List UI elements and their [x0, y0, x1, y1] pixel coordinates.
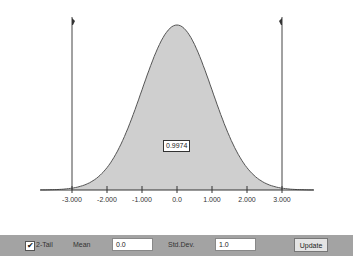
two-tail-checkbox[interactable]: ✔ [25, 241, 35, 251]
left-handle-flag-icon [72, 18, 75, 25]
two-tail-label: 2-Tail [36, 241, 53, 248]
control-toolbar: ✔ 2-Tail Mean 0.0 Std.Dev. 1.0 Update [0, 235, 353, 256]
tick-label: 0.0 [162, 196, 192, 203]
tick-label: 3.000 [267, 196, 297, 203]
mean-label: Mean [73, 241, 91, 248]
distribution-curve [0, 0, 360, 215]
right-handle-flag-icon [279, 18, 282, 25]
std-dev-input[interactable]: 1.0 [215, 238, 256, 251]
normal-distribution-plot: -3.000 -2.000 -1.000 0.0 1.000 2.000 3.0… [0, 0, 360, 215]
tick-label: 1.000 [197, 196, 227, 203]
std-dev-label: Std.Dev. [168, 241, 194, 248]
mean-input[interactable]: 0.0 [112, 238, 153, 251]
update-button[interactable]: Update [294, 238, 328, 252]
tick-label: -3.000 [57, 196, 87, 203]
area-value-label: 0.9974 [163, 140, 190, 152]
tick-label: -2.000 [92, 196, 122, 203]
tick-label: -1.000 [127, 196, 157, 203]
tick-label: 2.000 [232, 196, 262, 203]
